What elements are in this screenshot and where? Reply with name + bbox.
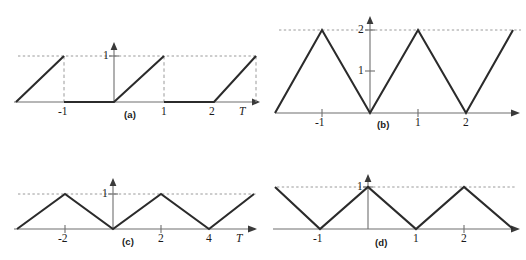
panel-a-plot bbox=[0, 0, 263, 130]
panel-c-plot bbox=[0, 130, 263, 260]
waveform-d bbox=[275, 187, 513, 229]
figure-grid: 1 -1 1 2 T (a) 2 1 -1 1 2 bbox=[0, 0, 526, 260]
y-axis-arrow-d bbox=[365, 174, 372, 182]
waveform-b bbox=[275, 30, 513, 113]
panel-d: 1 -1 1 2 (d) bbox=[263, 130, 526, 260]
y-axis-arrow-a bbox=[111, 42, 118, 50]
x-axis-arrow-b bbox=[511, 109, 520, 116]
y-axis-arrow-b bbox=[367, 16, 374, 24]
panel-d-plot bbox=[263, 130, 526, 260]
panel-b-plot bbox=[263, 0, 526, 130]
waveform-a bbox=[16, 56, 256, 102]
y-axis-arrow-c bbox=[110, 178, 117, 186]
panel-a: 1 -1 1 2 T (a) bbox=[0, 0, 263, 130]
waveform-c bbox=[17, 194, 254, 229]
panel-b: 2 1 -1 1 2 (b) bbox=[263, 0, 526, 130]
panel-c: 1 -2 2 4 T (c) bbox=[0, 130, 263, 260]
x-axis-arrow-c bbox=[248, 225, 257, 232]
